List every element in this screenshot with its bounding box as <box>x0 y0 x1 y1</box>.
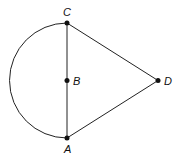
point-d <box>156 78 161 83</box>
point-c <box>65 21 70 26</box>
geometry-diagram: C B A D <box>0 0 182 161</box>
segment-ad <box>67 81 158 139</box>
point-b <box>65 78 70 83</box>
label-d: D <box>164 75 172 87</box>
label-c: C <box>63 6 71 18</box>
label-b: B <box>73 75 80 87</box>
semicircle-arc-ca <box>10 23 67 138</box>
segment-cd <box>67 23 158 81</box>
point-a <box>65 136 70 141</box>
label-a: A <box>63 143 71 155</box>
